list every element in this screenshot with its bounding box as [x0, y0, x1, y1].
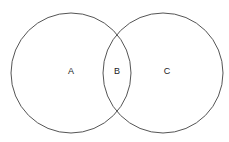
label-c: C: [164, 66, 171, 76]
label-a: A: [68, 66, 74, 76]
venn-diagram: A B C: [0, 0, 229, 142]
label-b: B: [114, 66, 120, 76]
